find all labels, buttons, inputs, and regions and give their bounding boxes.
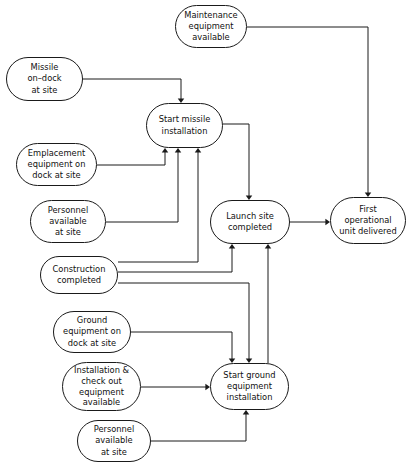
node-launch_site[interactable]: Launch site completed: [210, 200, 290, 244]
node-personnel_upper[interactable]: Personnel available at site: [30, 200, 106, 243]
node-start_missile[interactable]: Start missile installation: [146, 103, 223, 148]
node-personnel_lower[interactable]: Personnel available at site: [77, 420, 151, 462]
edge-maintenance-to-first-unit: [247, 27, 368, 193]
node-label-construction: Construction completed: [41, 264, 117, 286]
node-maintenance[interactable]: Maintenance equipment available: [175, 5, 247, 48]
node-label-personnel_upper: Personnel available at site: [31, 205, 105, 239]
node-label-missile_on_dock: Missile on–dock at site: [7, 62, 82, 96]
node-ground_equipment[interactable]: Ground equipment on dock at site: [53, 311, 131, 353]
arrowhead-personnel-upper-to-start-missile: [175, 148, 182, 153]
edge-personnel-upper-to-start-missile: [106, 152, 178, 222]
edge-personnel-lower-to-start-ground: [151, 414, 246, 441]
edge-missile-on-dock-to-start-missile: [83, 79, 181, 99]
arrowhead-construction-to-start-missile: [195, 148, 202, 153]
edge-construction-to-launch-site: [118, 248, 232, 272]
node-installation_checkout[interactable]: Installation & check out equipment avail…: [62, 362, 141, 411]
edge-ground-equipment-to-start-ground: [131, 332, 232, 359]
arrowhead-start-ground-to-launch-site: [265, 244, 272, 249]
node-label-start_missile: Start missile installation: [147, 114, 222, 136]
node-start_ground[interactable]: Start ground equipment installation: [210, 363, 289, 410]
edge-construction-to-start-missile: [118, 152, 198, 262]
arrowhead-construction-to-launch-site: [229, 244, 236, 249]
edge-emplacement-to-start-missile: [97, 152, 165, 165]
node-label-personnel_lower: Personnel available at site: [78, 424, 150, 458]
node-label-maintenance: Maintenance equipment available: [176, 10, 246, 44]
node-missile_on_dock[interactable]: Missile on–dock at site: [6, 57, 83, 101]
node-emplacement[interactable]: Emplacement equipment on dock at site: [16, 143, 97, 186]
node-label-launch_site: Launch site completed: [211, 211, 289, 233]
node-first_unit[interactable]: First operational unit delivered: [330, 197, 406, 244]
edge-construction-to-start-ground: [118, 283, 249, 359]
arrowhead-emplacement-to-start-missile: [162, 148, 169, 153]
node-construction[interactable]: Construction completed: [40, 256, 118, 294]
node-label-ground_equipment: Ground equipment on dock at site: [54, 315, 130, 349]
edge-start-missile-to-launch-site: [223, 124, 249, 196]
node-label-installation_checkout: Installation & check out equipment avail…: [63, 365, 140, 407]
node-label-start_ground: Start ground equipment installation: [211, 370, 288, 404]
flowchart-diagram: Maintenance equipment availableMissile o…: [0, 0, 413, 464]
arrowhead-personnel-lower-to-start-ground: [243, 410, 250, 415]
node-label-emplacement: Emplacement equipment on dock at site: [17, 148, 96, 182]
node-label-first_unit: First operational unit delivered: [331, 204, 405, 238]
